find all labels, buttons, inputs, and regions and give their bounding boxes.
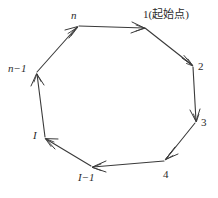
vertex-label-start: 1(起始点) <box>143 9 189 20</box>
vertex-label-3: 3 <box>201 117 207 128</box>
edge-1-to-2 <box>145 28 193 66</box>
edge-4-to-i-minus-1 <box>92 161 164 172</box>
edge-2-to-3 <box>190 67 200 122</box>
vertex-label-2: 2 <box>198 61 204 72</box>
vertex-label-i-minus-1: I−1 <box>78 172 95 183</box>
cycle-diagram-graphic <box>0 0 218 198</box>
edge-n-to-1 <box>79 22 145 33</box>
vertex-label-4: 4 <box>163 169 169 180</box>
edge-i-to-n-minus-1 <box>31 74 45 137</box>
edge-3-to-4 <box>165 123 195 160</box>
edge-i-minus-1-to-i <box>45 138 91 166</box>
vertex-label-n: n <box>71 10 77 21</box>
edge-n-minus-1-to-n <box>37 27 78 72</box>
vertex-label-i: I <box>33 130 37 141</box>
vertex-label-n-minus-1: n−1 <box>8 63 26 74</box>
diagram-canvas: n 1(起始点) 2 3 4 I−1 I n−1 <box>0 0 218 198</box>
edge-layer <box>31 22 200 172</box>
